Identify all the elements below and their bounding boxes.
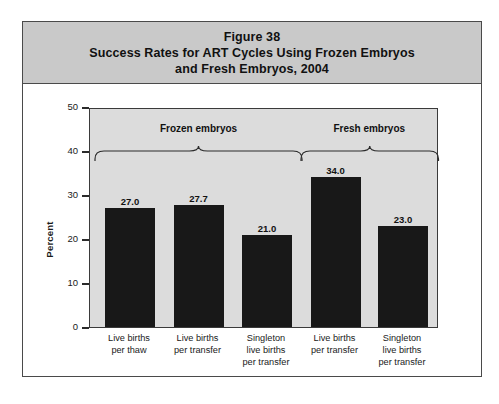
y-axis-tick-mark <box>82 195 89 197</box>
y-axis-tick-label: 40 <box>38 145 78 156</box>
x-axis-category-label: Singleton live births per transfer <box>365 332 439 368</box>
y-axis-tick-label: 0 <box>38 321 78 332</box>
bar[interactable] <box>105 208 155 327</box>
x-axis-category-label: Singleton live births per transfer <box>229 332 303 368</box>
bar-value-label: 23.0 <box>373 214 433 225</box>
bar[interactable] <box>242 235 292 327</box>
plot-area: 27.027.721.034.023.0 Frozen embryosFresh… <box>89 108 438 328</box>
bar-value-label: 21.0 <box>237 223 297 234</box>
y-axis-tick-mark <box>82 239 89 241</box>
bar-value-label: 27.0 <box>100 196 160 207</box>
x-axis-category-label: Live births per thaw <box>92 332 166 356</box>
bar[interactable] <box>174 205 224 327</box>
x-axis-category-label: Live births per transfer <box>298 332 372 356</box>
group-brace-icon <box>300 149 440 163</box>
y-axis-tick-mark <box>82 151 89 153</box>
y-axis-tick-label: 20 <box>38 233 78 244</box>
y-axis-tick-label: 30 <box>38 189 78 200</box>
figure-title-line-1: Figure 38 <box>224 29 280 45</box>
y-axis-tick-mark <box>82 327 89 329</box>
figure-frame: Figure 38 Success Rates for ART Cycles U… <box>22 21 482 377</box>
x-axis-category-label: Live births per transfer <box>161 332 235 356</box>
figure-title-line-3: and Fresh Embryos, 2004 <box>175 61 329 77</box>
y-axis-tick-mark <box>82 283 89 285</box>
group-brace-icon <box>94 149 303 163</box>
bar-value-label: 34.0 <box>306 165 366 176</box>
y-axis-tick-label: 50 <box>38 101 78 112</box>
bar[interactable] <box>378 226 428 327</box>
bar[interactable] <box>311 177 361 327</box>
chart-canvas: Percent 01020304050 27.027.721.034.023.0… <box>23 84 481 376</box>
y-axis-tick-mark <box>82 107 89 109</box>
y-axis-tick-label: 10 <box>38 277 78 288</box>
group-label: Frozen embryos <box>119 123 279 134</box>
figure-title-line-2: Success Rates for ART Cycles Using Froze… <box>89 45 414 61</box>
figure-title-band: Figure 38 Success Rates for ART Cycles U… <box>23 22 481 84</box>
group-label: Fresh embryos <box>289 123 449 134</box>
bar-value-label: 27.7 <box>169 193 229 204</box>
